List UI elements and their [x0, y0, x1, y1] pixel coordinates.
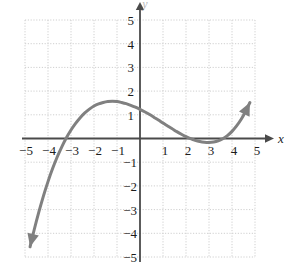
y-tick-label-1: 1 [128, 108, 135, 123]
coordinate-plane: −5 −4 −3 −2 −1 1 2 3 4 5 5 4 3 2 1 −1 −2… [0, 0, 297, 271]
y-tick-label--5: −5 [123, 250, 137, 265]
x-tick-label-3: 3 [208, 143, 215, 158]
graph-figure: −5 −4 −3 −2 −1 1 2 3 4 5 5 4 3 2 1 −1 −2… [0, 0, 297, 271]
y-tick-label--4: −4 [123, 226, 137, 241]
y-tick-label-2: 2 [128, 84, 135, 99]
x-tick-label-2: 2 [185, 143, 192, 158]
y-tick-label-3: 3 [128, 60, 135, 75]
x-tick-label-5: 5 [254, 143, 261, 158]
x-tick-label--2: −2 [88, 143, 102, 158]
x-tick-label--3: −3 [65, 143, 79, 158]
x-tick-label--5: −5 [19, 143, 33, 158]
chart-background [0, 0, 297, 271]
y-tick-label-5: 5 [128, 13, 135, 28]
x-tick-label-1: 1 [162, 143, 169, 158]
y-tick-label--2: −2 [123, 179, 137, 194]
y-tick-label--3: −3 [123, 203, 137, 218]
y-axis-label: y [141, 0, 148, 11]
y-tick-label--1: −1 [123, 155, 137, 170]
x-axis-label: x [277, 131, 284, 146]
y-tick-label-4: 4 [128, 37, 135, 52]
x-tick-label--4: −4 [42, 143, 56, 158]
x-tick-label-4: 4 [231, 143, 238, 158]
